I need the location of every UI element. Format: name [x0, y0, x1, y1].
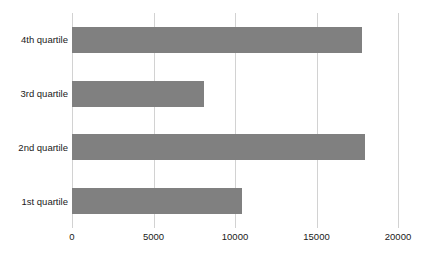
- x-tick-label: 5000: [143, 231, 164, 243]
- bar: [72, 27, 362, 53]
- category-label: 4th quartile: [2, 34, 68, 45]
- bar: [72, 81, 204, 107]
- category-axis: 4th quartile3rd quartile2nd quartile1st …: [0, 13, 68, 228]
- x-tick-label: 20000: [385, 231, 411, 243]
- bar: [72, 134, 365, 160]
- plot-area: [72, 13, 398, 228]
- value-axis: 05000100001500020000: [72, 231, 398, 247]
- bar: [72, 188, 242, 214]
- category-label: 3rd quartile: [2, 88, 68, 99]
- x-tick-label: 0: [69, 231, 74, 243]
- category-label: 2nd quartile: [2, 142, 68, 153]
- bar-chart: 4th quartile3rd quartile2nd quartile1st …: [0, 0, 428, 263]
- gridline: [398, 13, 399, 228]
- x-tick-label: 10000: [222, 231, 248, 243]
- category-label: 1st quartile: [2, 196, 68, 207]
- x-tick-label: 15000: [303, 231, 329, 243]
